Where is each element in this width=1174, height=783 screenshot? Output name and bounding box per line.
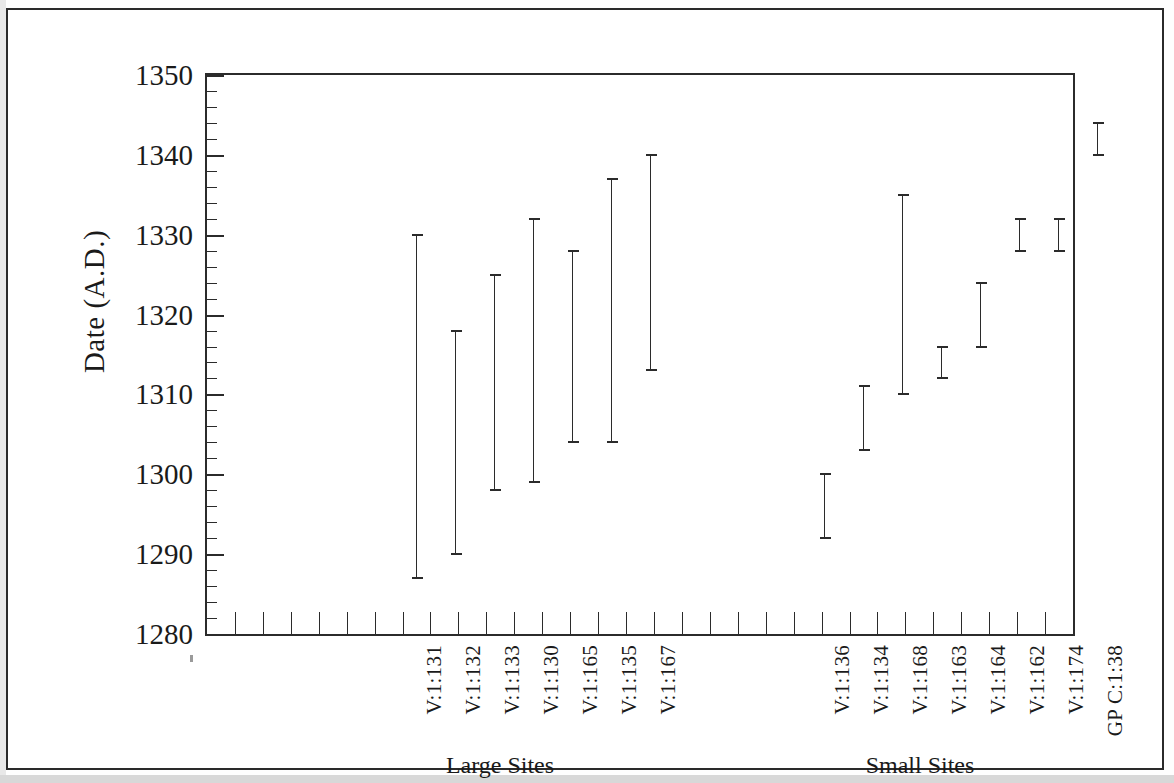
x-axis-tick [850, 612, 851, 634]
x-axis-tick [598, 612, 599, 634]
x-axis-tick [458, 612, 459, 634]
x-axis-category-label: V:1:136 [830, 645, 855, 714]
y-axis-tick-label: 1290 [135, 538, 193, 571]
y-axis-tick-label: 1350 [135, 59, 193, 92]
x-axis-tick [235, 612, 236, 634]
y-minor-tick [207, 586, 217, 587]
y-axis-tick-label: 1320 [135, 298, 193, 331]
x-axis-category-label: V:1:163 [947, 645, 972, 714]
range-bar [1058, 219, 1059, 251]
x-axis-tick [766, 612, 767, 634]
y-minor-tick [207, 171, 217, 172]
range-bar [611, 179, 612, 443]
x-axis-tick [291, 612, 292, 634]
x-axis-tick [905, 612, 906, 634]
y-minor-tick [207, 522, 217, 523]
x-axis-tick [263, 612, 264, 634]
y-minor-tick [207, 91, 217, 92]
x-axis-category-label: V:1:168 [908, 645, 933, 714]
y-minor-tick [207, 538, 217, 539]
y-minor-tick [207, 283, 217, 284]
y-axis-tick-label: 1340 [135, 138, 193, 171]
range-bar [533, 219, 534, 483]
range-bar [1019, 219, 1020, 251]
group-caption: Small Sites [866, 752, 975, 779]
range-bar [824, 474, 825, 538]
range-bar [650, 155, 651, 371]
y-minor-tick [207, 426, 217, 427]
y-major-tick [207, 474, 224, 476]
range-bar [455, 331, 456, 555]
range-bar [980, 283, 981, 347]
x-axis-tick [1017, 612, 1018, 634]
y-axis-tick-label: 1310 [135, 378, 193, 411]
x-axis-tick [822, 612, 823, 634]
x-axis-category-label: V:1:134 [869, 645, 894, 714]
x-axis-category-label: V:1:167 [656, 645, 681, 714]
x-axis-tick [738, 612, 739, 634]
x-axis-tick [989, 612, 990, 634]
scanned-page: Date (A.D.) 1280129013001310132013301340… [0, 0, 1174, 783]
y-minor-tick [207, 331, 217, 332]
x-axis-category-label: V:1:164 [986, 645, 1011, 714]
y-minor-tick [207, 299, 217, 300]
range-bar [902, 195, 903, 395]
y-minor-tick [207, 618, 217, 619]
y-minor-tick [207, 107, 217, 108]
range-bar [572, 251, 573, 443]
x-axis-tick [347, 612, 348, 634]
y-minor-tick [207, 410, 217, 411]
y-minor-tick [207, 219, 217, 220]
y-axis-tick-label: 1330 [135, 218, 193, 251]
x-axis-category-label: GP C:1:38 [1103, 645, 1128, 736]
y-major-tick [207, 394, 224, 396]
y-minor-tick [207, 602, 217, 603]
x-axis-category-label: V:1:132 [461, 645, 486, 714]
y-minor-tick [207, 506, 217, 507]
y-axis-title: Date (A.D.) [78, 172, 111, 432]
y-minor-tick [207, 267, 217, 268]
y-major-tick [207, 235, 224, 237]
x-axis-category-label: V:1:162 [1025, 645, 1050, 714]
y-minor-tick [207, 203, 217, 204]
y-minor-tick [207, 251, 217, 252]
x-axis-tick [626, 612, 627, 634]
y-major-tick [207, 315, 224, 317]
x-axis-category-label: V:1:165 [578, 645, 603, 714]
y-minor-tick [207, 458, 217, 459]
y-axis-tick-label: 1280 [135, 618, 193, 651]
y-minor-tick [207, 570, 217, 571]
y-minor-tick [207, 442, 217, 443]
x-axis-category-label: V:1:133 [500, 645, 525, 714]
y-axis-tick-label: 1300 [135, 458, 193, 491]
range-bar-chart-figure: Date (A.D.) 1280129013001310132013301340… [0, 0, 1174, 783]
x-axis-category-label: V:1:130 [539, 645, 564, 714]
y-minor-tick [207, 490, 217, 491]
scan-speck [190, 655, 193, 662]
range-bar [416, 235, 417, 578]
x-axis-category-label: V:1:174 [1064, 645, 1089, 714]
x-axis-tick [961, 612, 962, 634]
x-axis-tick [542, 612, 543, 634]
y-minor-tick [207, 187, 217, 188]
x-axis-tick [403, 612, 404, 634]
x-axis-tick [933, 612, 934, 634]
y-minor-tick [207, 347, 217, 348]
x-axis-tick [570, 612, 571, 634]
group-caption: Large Sites [446, 752, 554, 779]
x-axis-tick [319, 612, 320, 634]
x-axis-tick [877, 612, 878, 634]
x-axis-tick [654, 612, 655, 634]
x-axis-tick [1045, 612, 1046, 634]
x-axis-tick [514, 612, 515, 634]
x-axis-tick [375, 612, 376, 634]
range-bar [941, 347, 942, 379]
x-axis-category-label: V:1:131 [422, 645, 447, 714]
x-axis-tick [794, 612, 795, 634]
range-bar [1097, 123, 1098, 155]
y-major-tick [207, 75, 224, 77]
y-minor-tick [207, 378, 217, 379]
x-axis-tick [430, 612, 431, 634]
range-bar [863, 386, 864, 450]
y-minor-tick [207, 362, 217, 363]
